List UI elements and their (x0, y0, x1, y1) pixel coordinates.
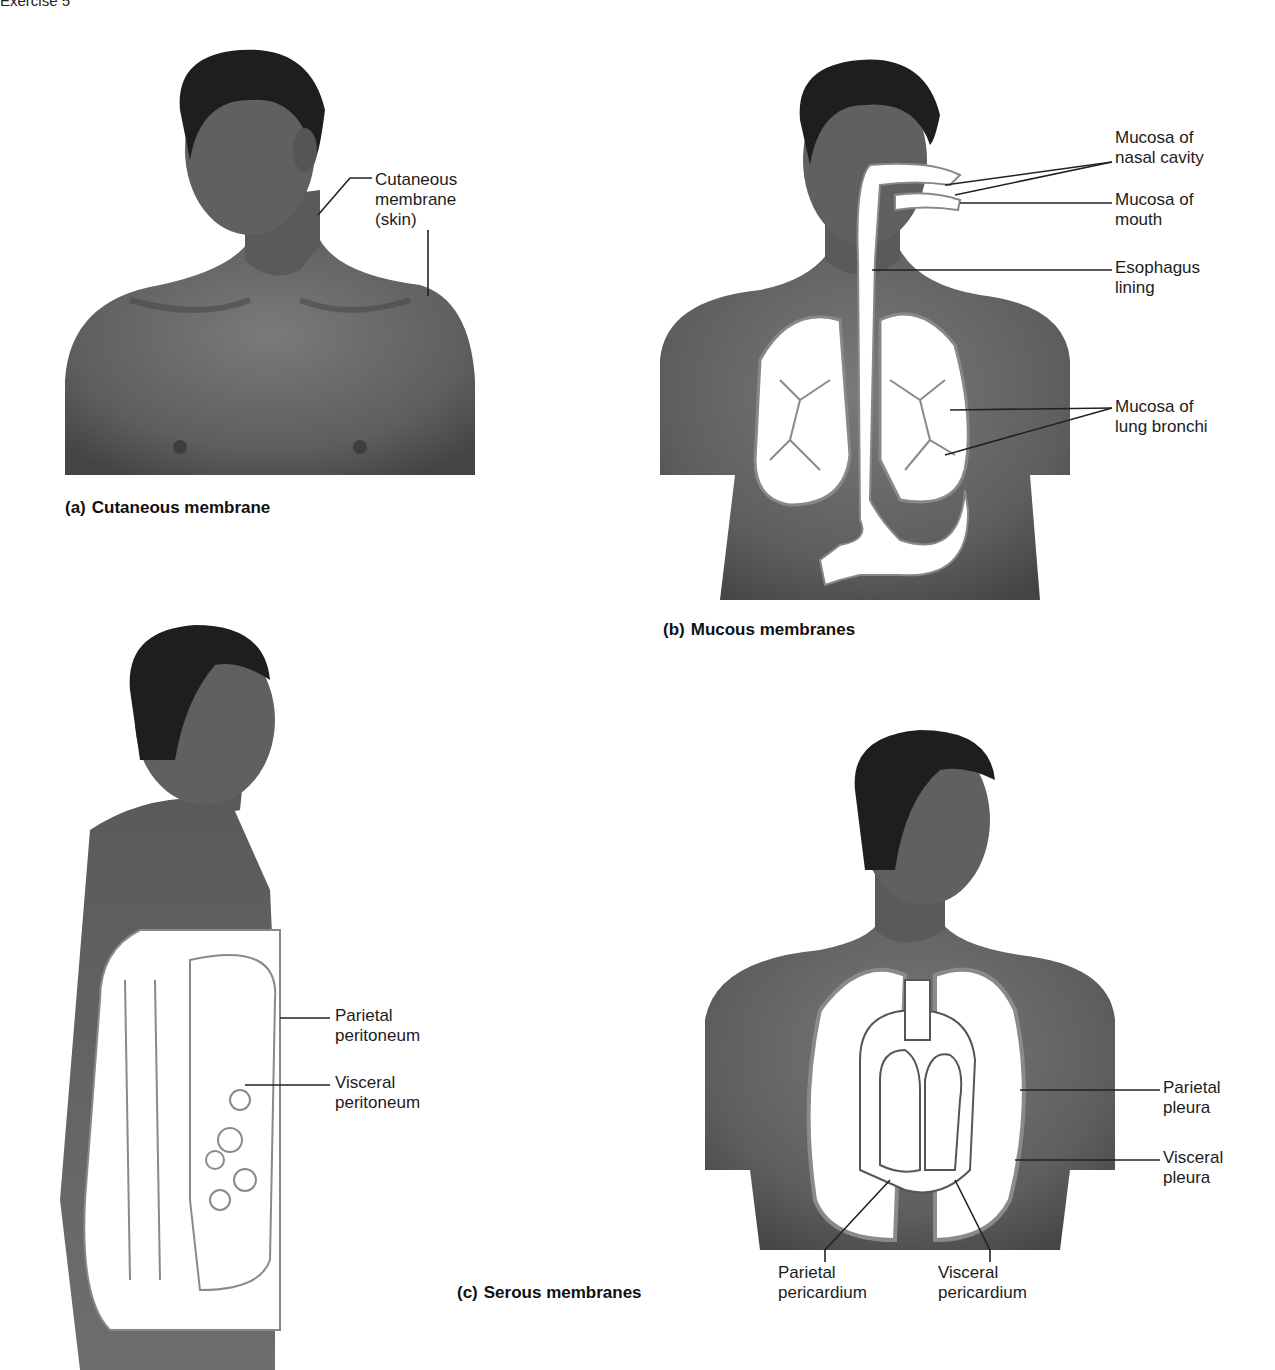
label-visceral-pleura: Visceral pleura (1163, 1148, 1223, 1188)
label-mucosa-nasal-cavity: Mucosa of nasal cavity (1115, 128, 1204, 168)
figure-c-front-torso (705, 730, 1115, 1250)
label-mucosa-lung-bronchi: Mucosa of lung bronchi (1115, 397, 1208, 437)
label-line: nasal cavity (1115, 148, 1204, 168)
figure-a-torso (65, 50, 475, 475)
label-line: Visceral (1163, 1148, 1223, 1168)
figure-b-torso (660, 60, 1070, 600)
label-line: pericardium (938, 1283, 1027, 1303)
caption-letter: (c) (457, 1283, 478, 1302)
label-line: Mucosa of (1115, 190, 1193, 210)
figure-c-side-torso (60, 625, 280, 1370)
label-line: Parietal (778, 1263, 867, 1283)
label-line: membrane (375, 190, 457, 210)
label-line: Esophagus (1115, 258, 1200, 278)
label-line: lining (1115, 278, 1200, 298)
label-line: mouth (1115, 210, 1193, 230)
label-visceral-peritoneum: Visceral peritoneum (335, 1073, 420, 1113)
label-visceral-pericardium: Visceral pericardium (938, 1263, 1027, 1303)
label-line: Parietal (1163, 1078, 1221, 1098)
label-parietal-peritoneum: Parietal peritoneum (335, 1006, 420, 1046)
label-line: lung bronchi (1115, 417, 1208, 437)
label-line: Mucosa of (1115, 128, 1204, 148)
caption-letter: (b) (663, 620, 685, 639)
label-line: pleura (1163, 1168, 1223, 1188)
label-line: Visceral (335, 1073, 420, 1093)
caption-letter: (a) (65, 498, 86, 517)
label-esophagus-lining: Esophagus lining (1115, 258, 1200, 298)
caption-text: Mucous membranes (691, 620, 855, 639)
label-parietal-pericardium: Parietal pericardium (778, 1263, 867, 1303)
label-line: pleura (1163, 1098, 1221, 1118)
label-line: Parietal (335, 1006, 420, 1026)
caption-figure-b: (b)Mucous membranes (663, 620, 855, 640)
label-parietal-pleura: Parietal pleura (1163, 1078, 1221, 1118)
caption-figure-a: (a)Cutaneous membrane (65, 498, 270, 518)
label-line: Cutaneous (375, 170, 457, 190)
label-mucosa-mouth: Mucosa of mouth (1115, 190, 1193, 230)
label-line: peritoneum (335, 1093, 420, 1113)
label-line: Mucosa of (1115, 397, 1208, 417)
label-cutaneous-membrane: Cutaneous membrane (skin) (375, 170, 457, 230)
caption-text: Cutaneous membrane (92, 498, 271, 517)
label-line: peritoneum (335, 1026, 420, 1046)
label-line: (skin) (375, 210, 457, 230)
label-line: Visceral (938, 1263, 1027, 1283)
anatomy-illustration (0, 0, 1275, 1370)
label-line: pericardium (778, 1283, 867, 1303)
caption-text: Serous membranes (484, 1283, 642, 1302)
caption-figure-c: (c)Serous membranes (457, 1283, 642, 1303)
